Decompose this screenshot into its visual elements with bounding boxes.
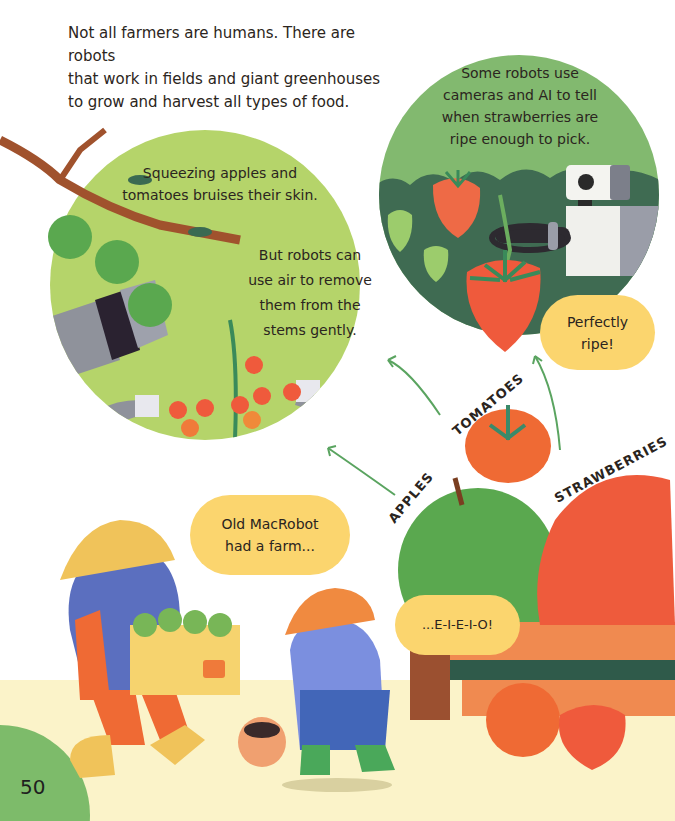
text-line: But robots can (245, 243, 375, 268)
page-number: 50 (20, 775, 45, 799)
left-circle-text-2: But robots can use air to remove them fr… (245, 243, 375, 343)
bubble-line: ripe! (581, 333, 614, 355)
speech-bubble-perfectly-ripe: Perfectly ripe! (540, 295, 655, 370)
text-line: cameras and AI to tell (425, 84, 615, 106)
bubble-line: Old MacRobot (221, 513, 318, 535)
bubble-line: had a farm... (225, 535, 315, 557)
bubble-line: Perfectly (567, 311, 628, 333)
left-circle-text-1: Squeezing apples and tomatoes bruises th… (120, 162, 320, 206)
right-circle-text: Some robots use cameras and AI to tell w… (425, 62, 615, 150)
text-line: them from the (245, 293, 375, 318)
text-line: Some robots use (425, 62, 615, 84)
text-line: Squeezing apples and (120, 162, 320, 184)
text-line: stems gently. (245, 318, 375, 343)
speech-bubble-eieio: ...E-I-E-I-O! (395, 595, 520, 655)
speech-bubble-old-macrobot: Old MacRobot had a farm... (190, 495, 350, 575)
text-line: tomatoes bruises their skin. (120, 184, 320, 206)
text-line: when strawberries are (425, 106, 615, 128)
robot-farmer-small (238, 588, 395, 792)
text-line: ripe enough to pick. (425, 128, 615, 150)
text-line: use air to remove (245, 268, 375, 293)
